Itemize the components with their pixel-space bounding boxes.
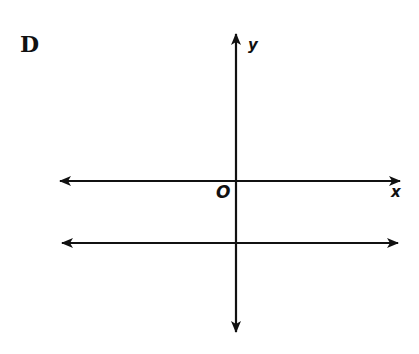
- y-axis-label: y: [248, 36, 259, 54]
- coordinate-diagram: D y x O: [0, 0, 419, 354]
- x-axis-label: x: [390, 183, 402, 201]
- origin-label: O: [216, 182, 230, 202]
- choice-label: D: [20, 31, 39, 57]
